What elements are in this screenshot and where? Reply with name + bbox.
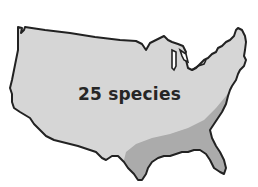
- species-range-map: 25 species: [0, 0, 258, 187]
- species-count-label: 25 species: [78, 84, 181, 104]
- lake-michigan: [172, 50, 176, 70]
